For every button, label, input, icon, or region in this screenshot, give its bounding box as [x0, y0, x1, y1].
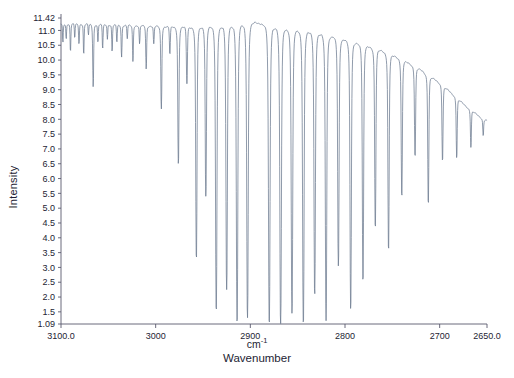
y-tick-label: 1.09 — [37, 319, 55, 329]
x-axis-unit: cm-1 — [0, 336, 514, 350]
y-tick-label: 7.0 — [42, 144, 55, 154]
y-axis-ticks: 11.4211.010.510.09.59.08.58.07.57.06.56.… — [33, 13, 61, 329]
y-tick-label: 1.5 — [42, 307, 55, 317]
y-axis-title: Intensity — [2, 142, 24, 232]
y-tick-label: 4.0 — [42, 233, 55, 243]
y-tick-label: 5.5 — [42, 189, 55, 199]
y-tick-label: 11.0 — [38, 26, 55, 36]
y-tick-label: 8.0 — [42, 115, 55, 125]
y-tick-label: 4.5 — [42, 218, 55, 228]
y-tick-label: 7.5 — [42, 129, 55, 139]
y-tick-label: 10.0 — [37, 55, 55, 65]
y-tick-label: 3.5 — [42, 248, 55, 258]
axis-lines — [61, 14, 487, 324]
y-tick-label: 6.0 — [42, 174, 55, 184]
y-tick-label: 8.5 — [42, 100, 55, 110]
y-tick-label: 9.0 — [42, 85, 55, 95]
x-axis-unit-text: cm — [247, 338, 261, 350]
y-tick-label: 2.5 — [42, 277, 55, 287]
y-tick-label: 6.5 — [42, 159, 55, 169]
y-tick-label: 9.5 — [42, 70, 55, 80]
x-axis-title: Wavenumber — [0, 352, 514, 364]
y-tick-label: 11.42 — [33, 13, 55, 23]
spectrum-line — [61, 22, 487, 324]
y-tick-label: 5.0 — [42, 203, 55, 213]
y-tick-label: 2.0 — [42, 292, 55, 302]
ir-spectrum-figure: Intensity cm-1 Wavenumber 11.4211.010.51… — [0, 0, 514, 378]
y-tick-label: 3.0 — [42, 263, 55, 273]
y-tick-label: 10.5 — [37, 40, 55, 50]
spectrum-trace — [61, 22, 487, 324]
plot-canvas: 11.4211.010.510.09.59.08.58.07.57.06.56.… — [0, 0, 514, 378]
x-axis-unit-exponent: -1 — [261, 336, 268, 345]
